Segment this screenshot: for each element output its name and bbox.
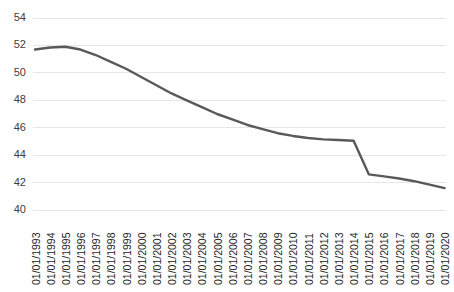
y-axis-tick-label: 44 bbox=[0, 149, 26, 160]
x-axis-tick-label: 01/01/2019 bbox=[425, 232, 436, 285]
x-axis-tick-label: 01/01/2005 bbox=[213, 232, 224, 285]
x-axis-tick-label: 01/01/2009 bbox=[273, 232, 284, 285]
x-axis-tick-label: 01/01/2000 bbox=[137, 232, 148, 285]
x-axis-tick-label: 01/01/2002 bbox=[167, 232, 178, 285]
x-axis-tick-label: 01/01/1993 bbox=[31, 232, 42, 285]
x-axis-tick-label: 01/01/2016 bbox=[379, 232, 390, 285]
x-axis-tick-label: 01/01/2008 bbox=[258, 232, 269, 285]
x-axis-tick-label: 01/01/2018 bbox=[410, 232, 421, 285]
x-axis-tick-label: 01/01/1996 bbox=[76, 232, 87, 285]
x-axis-tick-label: 01/01/1997 bbox=[91, 232, 102, 285]
x-axis-tick-label: 01/01/2017 bbox=[395, 232, 406, 285]
x-axis-tick-label: 01/01/1995 bbox=[61, 232, 72, 285]
y-axis-tick-label: 54 bbox=[0, 12, 26, 23]
y-axis-tick-label: 50 bbox=[0, 67, 26, 78]
x-axis-tick-label: 01/01/2012 bbox=[319, 232, 330, 285]
x-axis-tick-label: 01/01/2007 bbox=[243, 232, 254, 285]
data-series-line bbox=[35, 47, 445, 188]
x-axis-tick-label: 01/01/2006 bbox=[228, 232, 239, 285]
x-axis-tick-label: 01/01/2013 bbox=[334, 232, 345, 285]
x-axis-tick-label: 01/01/2015 bbox=[364, 232, 375, 285]
y-axis-tick-label: 48 bbox=[0, 94, 26, 105]
x-axis-tick-label: 01/01/1994 bbox=[46, 232, 57, 285]
x-axis-tick-label: 01/01/2014 bbox=[349, 232, 360, 285]
y-axis-tick-label: 52 bbox=[0, 39, 26, 50]
line-chart: 5452504846444240 01/01/199301/01/199401/… bbox=[0, 0, 454, 292]
x-axis-tick-label: 01/01/1999 bbox=[122, 232, 133, 285]
x-axis-tick-label: 01/01/2011 bbox=[304, 233, 315, 285]
x-axis-tick-label: 01/01/2010 bbox=[288, 232, 299, 285]
gridlines bbox=[33, 18, 446, 210]
y-axis-tick-label: 46 bbox=[0, 122, 26, 133]
x-axis-tick-label: 01/01/2020 bbox=[440, 232, 451, 285]
x-axis-tick-label: 01/01/2003 bbox=[182, 232, 193, 285]
x-axis-tick-label: 01/01/2001 bbox=[152, 232, 163, 285]
y-axis-tick-label: 40 bbox=[0, 204, 26, 215]
x-axis-tick-label: 01/01/2004 bbox=[197, 232, 208, 285]
y-axis-tick-label: 42 bbox=[0, 177, 26, 188]
x-axis-tick-label: 01/01/1998 bbox=[106, 232, 117, 285]
